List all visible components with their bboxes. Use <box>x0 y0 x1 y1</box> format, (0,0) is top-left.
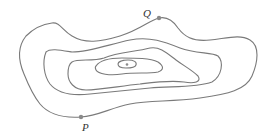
summit-point <box>126 63 129 66</box>
contour-line-3 <box>68 48 199 90</box>
contour-map: Q P <box>0 0 274 136</box>
point-p-label: P <box>81 121 89 133</box>
point-q-label: Q <box>143 7 151 19</box>
point-p-marker <box>79 115 83 119</box>
contour-line-2 <box>44 39 221 95</box>
point-q-marker <box>157 16 161 20</box>
